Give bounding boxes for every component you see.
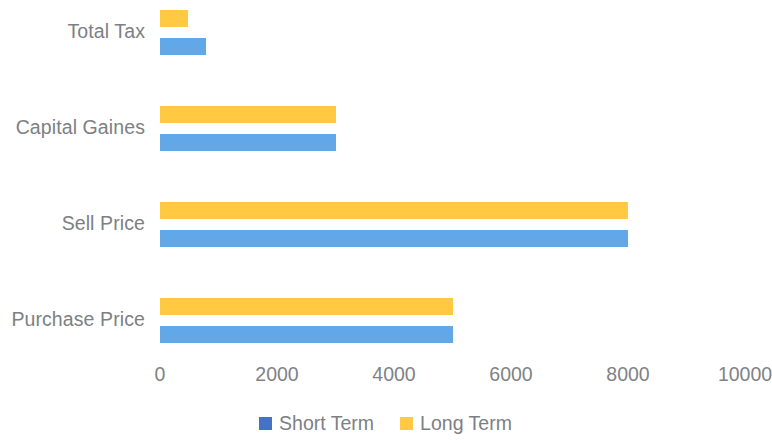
x-tick-label-6000: 6000 (489, 363, 532, 386)
category-group: Sell Price (0, 202, 771, 247)
bar-capital-gaines-short-term (160, 134, 336, 151)
bar-sell-price-short-term (160, 230, 628, 247)
x-tick-label-8000: 8000 (606, 363, 649, 386)
x-tick-label-0: 0 (155, 363, 166, 386)
bar-capital-gaines-long-term (160, 106, 336, 123)
legend-item-long-term[interactable]: Long Term (400, 412, 512, 435)
legend-swatch-icon (400, 417, 413, 430)
plot-area: Total TaxCapital GainesSell PricePurchas… (0, 0, 771, 360)
bar-total-tax-long-term (160, 10, 188, 27)
bar-total-tax-short-term (160, 38, 206, 55)
chart-legend: Short TermLong Term (0, 412, 771, 435)
legend-item-short-term[interactable]: Short Term (259, 412, 374, 435)
x-tick-label-2000: 2000 (255, 363, 298, 386)
category-group: Total Tax (0, 10, 771, 55)
category-label-purchase-price: Purchase Price (0, 308, 145, 331)
legend-label: Short Term (279, 412, 374, 435)
category-group: Purchase Price (0, 298, 771, 343)
legend-swatch-icon (259, 417, 272, 430)
category-label-capital-gaines: Capital Gaines (0, 116, 145, 139)
x-tick-label-4000: 4000 (372, 363, 415, 386)
category-label-sell-price: Sell Price (0, 212, 145, 235)
category-group: Capital Gaines (0, 106, 771, 151)
category-label-total-tax: Total Tax (0, 20, 145, 43)
bar-sell-price-long-term (160, 202, 628, 219)
bar-purchase-price-long-term (160, 298, 453, 315)
x-tick-label-10000: 10000 (718, 363, 772, 386)
bar-purchase-price-short-term (160, 326, 453, 343)
legend-label: Long Term (420, 412, 512, 435)
x-axis-tick-labels: 0200040006000800010000 (0, 363, 771, 393)
